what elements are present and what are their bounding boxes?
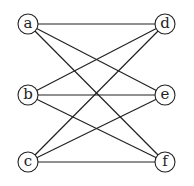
bipartite-graph: abcdef bbox=[0, 0, 194, 186]
node-label: a bbox=[24, 14, 33, 32]
node-label: d bbox=[160, 14, 170, 32]
node-c: c bbox=[18, 152, 38, 172]
node-d: d bbox=[155, 14, 175, 34]
node-label: b bbox=[23, 85, 33, 103]
node-b: b bbox=[18, 85, 38, 105]
node-a: a bbox=[18, 14, 38, 34]
node-label: c bbox=[24, 152, 32, 170]
edges bbox=[28, 24, 165, 162]
node-f: f bbox=[155, 152, 175, 172]
node-e: e bbox=[155, 85, 175, 105]
node-label: e bbox=[161, 85, 170, 103]
